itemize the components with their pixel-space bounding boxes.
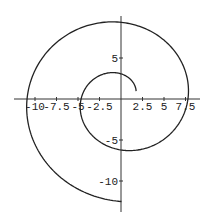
x-tick-label: 5 bbox=[161, 101, 168, 113]
y-tick-label: -10 bbox=[98, 176, 118, 188]
x-tick-label: -5 bbox=[71, 101, 84, 113]
x-tick-label: -10 bbox=[25, 101, 45, 113]
x-tick-label: -7.5 bbox=[43, 101, 69, 113]
spiral-plot: -10-7.5-5-2.52.557.5 5-5-10 bbox=[0, 0, 211, 219]
axes: -10-7.5-5-2.52.557.5 5-5-10 bbox=[14, 16, 200, 212]
x-tick-label: -2.5 bbox=[86, 101, 112, 113]
x-tick-label: 2.5 bbox=[133, 101, 153, 113]
y-tick-label: 5 bbox=[111, 53, 118, 65]
